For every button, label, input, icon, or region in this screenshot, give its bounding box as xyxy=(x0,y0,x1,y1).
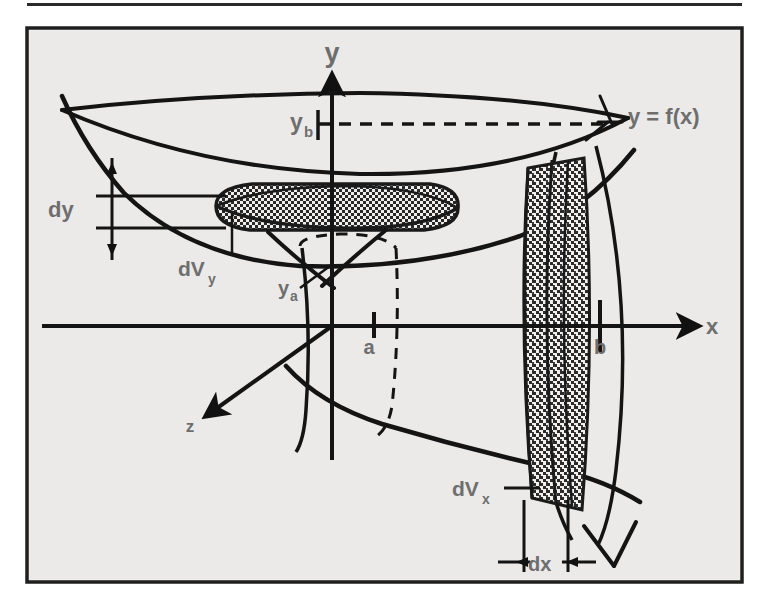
yb-label-sub: b xyxy=(304,123,313,140)
dVx-label-sub: x xyxy=(482,491,490,507)
axis-label-x: x xyxy=(706,314,719,339)
axis-label-y: y xyxy=(324,38,339,68)
figure-page: y x z y = f(x) y b y a dy dV y dV x dx a… xyxy=(0,0,770,605)
a-label: a xyxy=(363,336,375,358)
dVy-label-base: dV xyxy=(178,257,205,280)
b-label: b xyxy=(594,336,606,358)
ya-label-sub: a xyxy=(290,288,298,304)
dVy-washer xyxy=(216,184,458,230)
yb-label-base: y xyxy=(290,109,303,135)
top-rule xyxy=(27,3,742,6)
ya-label-base: y xyxy=(278,277,290,299)
dVx-label-base: dV xyxy=(452,477,479,500)
dVy-label-sub: y xyxy=(208,271,216,287)
curve-label: y = f(x) xyxy=(628,104,700,129)
axis-label-z: z xyxy=(186,417,195,436)
dy-label: dy xyxy=(48,197,74,222)
solid-of-revolution-figure: y x z y = f(x) y b y a dy dV y dV x dx a… xyxy=(0,0,770,605)
dx-label: dx xyxy=(528,553,551,575)
dVx-disc xyxy=(524,158,590,510)
